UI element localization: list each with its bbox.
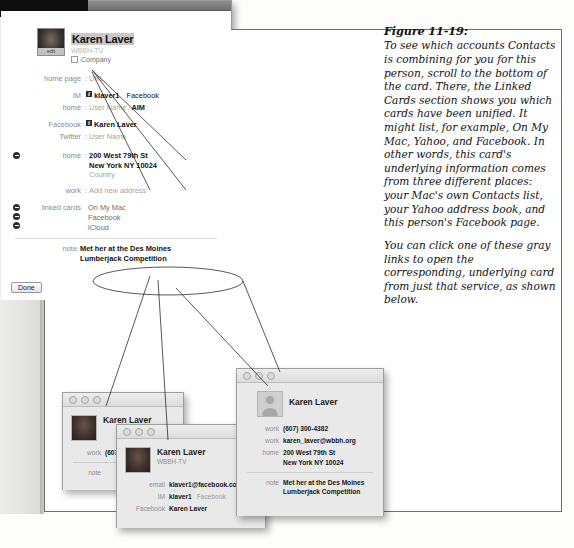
- home-page-label: home page: [35, 74, 84, 84]
- row-work-email[interactable]: work karen_laver@wbbh.org: [245, 436, 375, 445]
- work-email-value[interactable]: karen_laver@wbbh.org: [283, 436, 356, 445]
- row-home-address[interactable]: home 200 West 79th St New York NY 10024: [245, 448, 375, 466]
- address-label: home: [35, 151, 84, 161]
- close-button-icon[interactable]: [243, 372, 251, 380]
- zoom-button-icon[interactable]: [93, 396, 101, 404]
- im-service[interactable]: Facebook: [197, 492, 226, 501]
- person-silhouette-icon: [266, 396, 274, 404]
- facebook-value[interactable]: Karen Laver: [169, 504, 207, 513]
- note-block[interactable]: Met her at the Des Moines Lumberjack Com…: [80, 244, 171, 264]
- im-label: IM: [35, 91, 84, 101]
- avatar-edit-label[interactable]: edit: [38, 48, 64, 55]
- note-divider: [15, 238, 217, 239]
- zoom-button-icon[interactable]: [147, 428, 155, 436]
- linked-card-on-my-mac[interactable]: On My Mac: [88, 203, 126, 213]
- minimize-button-icon[interactable]: [255, 372, 263, 380]
- row-home-address[interactable]: home : 200 West 79th St New York NY 1002…: [1, 151, 231, 181]
- row-facebook[interactable]: Facebook f Karen Laver: [1, 120, 231, 130]
- home-page-value[interactable]: URL: [89, 74, 104, 84]
- done-button[interactable]: Done: [11, 282, 42, 293]
- twitter-value[interactable]: User Name: [89, 132, 126, 142]
- linked-cards-list: On My Mac Facebook iCloud: [84, 203, 126, 233]
- close-button-icon[interactable]: [69, 396, 77, 404]
- avatar[interactable]: [71, 415, 97, 441]
- contact-name: Karen Laver: [289, 397, 337, 407]
- divider: [247, 472, 373, 473]
- email-value[interactable]: klaver1@facebook.com: [169, 480, 243, 489]
- home-im-service[interactable]: AIM: [131, 103, 145, 113]
- home-line-1[interactable]: 200 West 79th St: [283, 448, 343, 457]
- row-work-phone[interactable]: work (607) 300-4382: [245, 424, 375, 433]
- caption-paragraph-1: Figure 11-19: To see which accounts Cont…: [384, 24, 556, 230]
- contact-header: edit Karen Laver WBBH-TV Company: [1, 11, 231, 63]
- im-value[interactable]: klaver1: [169, 492, 192, 501]
- note-line-2[interactable]: Lumberjack Competition: [283, 487, 364, 496]
- linked-card-facebook[interactable]: Facebook: [88, 213, 126, 223]
- note-label: note: [51, 244, 80, 254]
- im-value[interactable]: klaver1: [94, 91, 119, 101]
- work-phone-label: work: [71, 448, 105, 457]
- work-phone-value[interactable]: (607) 300-4382: [283, 424, 328, 433]
- linked-card-icloud[interactable]: iCloud: [88, 223, 126, 233]
- row-note[interactable]: note Met her at the Des Moines Lumberjac…: [1, 244, 231, 264]
- contact-edit-window[interactable]: edit Karen Laver WBBH-TV Company home pa…: [0, 0, 232, 300]
- colon-icon: :: [146, 103, 148, 113]
- row-work-address[interactable]: work : Add new address: [1, 186, 231, 196]
- work-email-label: work: [245, 436, 283, 445]
- company-checkbox-row[interactable]: Company: [71, 56, 134, 63]
- avatar[interactable]: edit: [37, 28, 65, 56]
- home-address-block[interactable]: 200 West 79th St New York NY 10024: [283, 448, 343, 466]
- contact-name-block: Karen Laver WBBH-TV Company: [71, 28, 134, 63]
- facebook-label: Facebook: [125, 504, 169, 513]
- row-im-aim[interactable]: home : User Name AIM :: [1, 103, 231, 113]
- address-block[interactable]: 200 West 79th St New York NY 10024 Count…: [89, 151, 157, 181]
- address-line-1[interactable]: 200 West 79th St: [89, 151, 157, 161]
- home-line-2[interactable]: New York NY 10024: [283, 458, 343, 467]
- im-service[interactable]: Facebook: [126, 91, 158, 101]
- row-im-facebook[interactable]: IM f klaver1 Facebook: [1, 91, 231, 101]
- close-button-icon[interactable]: [123, 428, 131, 436]
- facebook-value[interactable]: Karen Laver: [94, 120, 137, 130]
- linked-cards-label: linked cards: [26, 203, 84, 213]
- contact-card-body: edit Karen Laver WBBH-TV Company home pa…: [1, 11, 231, 300]
- home-im-value[interactable]: User Name: [89, 103, 126, 113]
- avatar-placeholder[interactable]: [257, 391, 283, 417]
- im-label: IM: [125, 492, 169, 501]
- note-line-2[interactable]: Lumberjack Competition: [80, 254, 171, 264]
- contact-fields: home page : URL IM f klaver1 Facebook ho…: [1, 63, 231, 264]
- contact-organization[interactable]: WBBH-TV: [71, 47, 134, 54]
- zoom-button-icon[interactable]: [267, 372, 275, 380]
- note-line-1[interactable]: Met her at the Des Moines: [283, 478, 364, 487]
- card-body: Karen Laver work (607) 300-4382 work kar…: [237, 383, 383, 516]
- colon-icon: :: [85, 151, 87, 161]
- window-titlebar[interactable]: [63, 393, 183, 407]
- minimize-button-icon[interactable]: [135, 428, 143, 436]
- card-header: Karen Laver: [245, 391, 375, 417]
- avatar[interactable]: [125, 447, 151, 473]
- colon-icon: :: [85, 103, 87, 113]
- figure-caption: Figure 11-19: To see which accounts Cont…: [384, 24, 556, 316]
- twitter-label: Twitter: [15, 132, 84, 142]
- contact-name[interactable]: Karen Laver: [71, 33, 134, 45]
- address-line-2[interactable]: New York NY 10024: [89, 161, 157, 171]
- address-country[interactable]: Country: [89, 170, 157, 180]
- note-line-1[interactable]: Met her at the Des Moines: [80, 244, 171, 254]
- note-block[interactable]: Met her at the Des Moines Lumberjack Com…: [283, 478, 364, 496]
- facebook-f-logo-icon: f: [86, 91, 92, 97]
- work-phone-label: work: [245, 424, 283, 433]
- note-label: note: [71, 468, 105, 477]
- note-label: note: [245, 478, 283, 496]
- row-note[interactable]: note Met her at the Des Moines Lumberjac…: [245, 478, 375, 496]
- card-window-icloud[interactable]: Karen Laver work (607) 300-4382 work kar…: [236, 368, 384, 516]
- contact-name: Karen Laver: [157, 447, 205, 457]
- window-titlebar[interactable]: [237, 369, 383, 383]
- minimize-button-icon[interactable]: [81, 396, 89, 404]
- facebook-f-logo-icon: f: [86, 120, 92, 126]
- work-address-label: work: [35, 186, 84, 196]
- name-block: Karen Laver WBBH-TV: [151, 447, 205, 465]
- remove-address-button[interactable]: [13, 152, 20, 159]
- row-home-page[interactable]: home page : URL: [1, 74, 231, 84]
- row-twitter[interactable]: Twitter : User Name: [1, 132, 231, 142]
- checkbox-icon[interactable]: [71, 56, 78, 63]
- work-address-value[interactable]: Add new address: [89, 186, 146, 196]
